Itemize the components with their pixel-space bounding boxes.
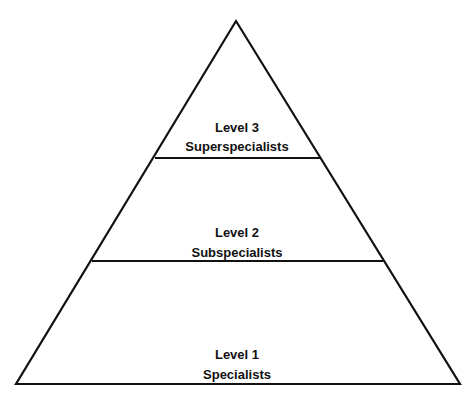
pyramid-outline — [16, 21, 460, 384]
level2-title: Level 2 — [0, 225, 474, 241]
level3-title: Level 3 — [0, 120, 474, 136]
level1-title: Level 1 — [0, 347, 474, 363]
pyramid-diagram — [0, 0, 474, 403]
level1-name: Specialists — [0, 367, 474, 383]
level2-name: Subspecialists — [0, 245, 474, 261]
level3-name: Superspecialists — [0, 139, 474, 155]
